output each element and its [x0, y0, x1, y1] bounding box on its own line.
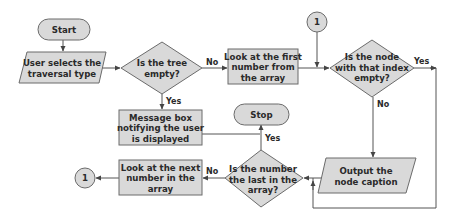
message-box-line2: notifying the user [117, 123, 205, 133]
first-number-line3: the array [241, 73, 286, 83]
connector-top: 1 [307, 12, 327, 32]
start-label: Start [52, 25, 76, 35]
edge-label-last-no: No [206, 167, 219, 176]
first-number-process: Look at the first number from the array [224, 49, 302, 84]
message-box-process: Message box notifying the user is displa… [117, 110, 205, 145]
select-traversal-line2: traversal type [28, 69, 97, 79]
select-traversal-input: User selects the traversal type [19, 52, 106, 83]
first-number-line2: number from [231, 62, 294, 72]
last-number-line3: array? [248, 185, 278, 195]
last-number-decision: Is the number the last in the array? [225, 150, 303, 207]
output-caption-line1: Output the [340, 166, 393, 176]
stop-label: Stop [250, 110, 272, 120]
edge-label-last-yes: Yes [264, 134, 280, 143]
next-number-process: Look at the next number in the array [119, 160, 202, 195]
last-number-line1: Is the number [229, 164, 298, 174]
message-box-line1: Message box [129, 113, 192, 123]
select-traversal-line1: User selects the [23, 58, 101, 68]
last-number-line2: the last in the [229, 175, 297, 185]
node-empty-line3: empty? [354, 73, 390, 83]
connector-bottom: 1 [75, 168, 95, 188]
next-number-line1: Look at the next [121, 163, 201, 173]
first-number-line1: Look at the first [224, 52, 302, 62]
node-empty-decision: Is the node with that index empty? [330, 40, 414, 97]
edge-label-node-yes: Yes [413, 57, 429, 66]
next-number-line2: number in the [126, 173, 195, 183]
node-empty-line2: with that index [335, 63, 409, 73]
tree-empty-line2: empty? [144, 69, 180, 79]
message-box-line3: is displayed [132, 134, 189, 144]
start-terminator: Start [38, 19, 90, 40]
tree-empty-line1: Is the tree [137, 58, 188, 68]
edge-label-tree-no: No [206, 58, 219, 67]
edge-label-node-no: No [377, 100, 390, 109]
stop-terminator: Stop [234, 104, 289, 125]
node-empty-line1: Is the node [345, 52, 400, 62]
edge-label-tree-yes: Yes [165, 97, 181, 106]
flowchart-diagram: Start User selects the traversal type Is… [0, 0, 449, 219]
tree-empty-decision: Is the tree empty? [121, 42, 202, 94]
connector-top-label: 1 [314, 17, 320, 27]
output-caption-line2: node caption [334, 177, 397, 187]
connector-bottom-label: 1 [82, 173, 88, 183]
output-caption-output: Output the node caption [318, 158, 416, 193]
next-number-line3: array [148, 184, 174, 194]
